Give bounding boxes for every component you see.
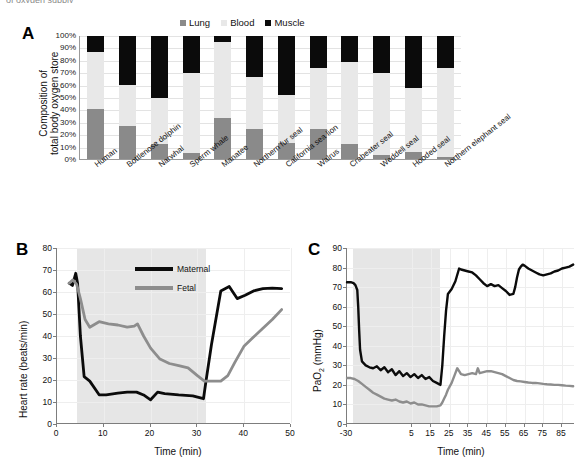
panel-c-plot-area bbox=[346, 248, 574, 424]
panel-b-plot-area: MaternalFetal bbox=[56, 248, 290, 424]
panel-a-legend: LungBloodMuscle bbox=[180, 17, 305, 28]
panel-a-y-tick: 90% bbox=[46, 43, 76, 52]
panelC-y-tick: 20 bbox=[316, 380, 342, 390]
panelB-x-tick: 40 bbox=[227, 428, 259, 438]
panel-a-bar-segment-lung bbox=[87, 109, 104, 159]
panelB-y-tick: 30 bbox=[26, 353, 52, 363]
panelC-y-tickmark bbox=[343, 307, 346, 308]
panelC-y-tick: 10 bbox=[316, 399, 342, 409]
panel-b-legend: MaternalFetal bbox=[135, 264, 210, 302]
panelC-y-tickmark bbox=[343, 326, 346, 327]
panel-a-y-tick: 0% bbox=[46, 155, 76, 164]
panel-a-legend-item-lung: Lung bbox=[180, 17, 210, 28]
panelC-x-tickmark bbox=[346, 424, 347, 427]
panelC-y-tick: 40 bbox=[316, 341, 342, 351]
panelC-y-tick: 60 bbox=[316, 302, 342, 312]
panel-a-bar bbox=[183, 36, 200, 159]
panel-c: C PaO2 (mmHg) Time (min) 010203040506070… bbox=[306, 232, 582, 469]
panelB-y-tickmark bbox=[53, 314, 56, 315]
panel-a-bar-segment-muscle bbox=[341, 36, 358, 62]
panelB-y-tick: 20 bbox=[26, 375, 52, 385]
panel-b: B Heart rate (beats/min) Time (min) Mate… bbox=[0, 232, 306, 469]
panel-b-legend-item-fetal: Fetal bbox=[135, 283, 210, 293]
panelB-x-tickmark bbox=[150, 424, 151, 427]
panel-a-bar bbox=[341, 36, 358, 159]
panel-a-bar-segment-muscle bbox=[437, 36, 454, 68]
panelB-x-tick: 20 bbox=[134, 428, 166, 438]
panelC-x-tickmark bbox=[467, 424, 468, 427]
panel-a-y-axis-label: Composition of total body oxygen store bbox=[38, 52, 60, 155]
legend-swatch-icon bbox=[221, 20, 227, 26]
panelB-gridline-v bbox=[291, 248, 292, 423]
panelB-y-tickmark bbox=[53, 336, 56, 337]
panel-a-bar bbox=[119, 36, 136, 159]
panelC-x-tickmark bbox=[524, 424, 525, 427]
panel-a-bars bbox=[80, 36, 461, 159]
panelB-x-tickmark bbox=[196, 424, 197, 427]
panel-a-bar-segment-muscle bbox=[278, 36, 295, 95]
panelC-x-tickmark bbox=[449, 424, 450, 427]
panel-a-bar-segment-blood bbox=[87, 52, 104, 109]
panelB-y-tick: 60 bbox=[26, 287, 52, 297]
panel-a-bar-segment-muscle bbox=[183, 36, 200, 73]
panel-a-bar bbox=[246, 36, 263, 159]
panel-b-legend-item-maternal: Maternal bbox=[135, 264, 210, 274]
panel-a-bar bbox=[87, 36, 104, 159]
panelB-x-tickmark bbox=[103, 424, 104, 427]
panel-a-legend-item-muscle: Muscle bbox=[265, 17, 304, 28]
panelC-y-tick: 30 bbox=[316, 360, 342, 370]
legend-line-icon bbox=[135, 286, 173, 290]
panelB-x-tick: 30 bbox=[180, 428, 212, 438]
panelC-x-tick: 85 bbox=[545, 428, 577, 438]
panelC-line-venous-gray- bbox=[347, 368, 573, 406]
panelB-x-tick: 50 bbox=[274, 428, 306, 438]
panel-c-x-axis-label: Time (min) bbox=[346, 446, 576, 457]
panel-a-legend-item-blood: Blood bbox=[221, 17, 254, 28]
panel-a-y-tick: 20% bbox=[46, 130, 76, 139]
panel-a-y-axis-label-line1: Composition of bbox=[38, 52, 49, 155]
panelC-y-tickmark bbox=[343, 385, 346, 386]
panel-a-legend-label: Lung bbox=[189, 17, 210, 28]
panel-a-y-tick: 50% bbox=[46, 93, 76, 102]
panel-a-y-tick: 60% bbox=[46, 81, 76, 90]
panel-a-bar-segment-muscle bbox=[373, 36, 390, 73]
panel-a-letter: A bbox=[22, 24, 34, 44]
panel-a: A Composition of total body oxygen store… bbox=[0, 0, 582, 232]
panelB-x-tick: 0 bbox=[40, 428, 72, 438]
panelC-y-tickmark bbox=[343, 268, 346, 269]
panelC-y-tick: 70 bbox=[316, 282, 342, 292]
panelC-y-tick: 50 bbox=[316, 321, 342, 331]
panelB-y-tickmark bbox=[53, 402, 56, 403]
panelB-y-tickmark bbox=[53, 248, 56, 249]
panel-a-y-tick: 30% bbox=[46, 118, 76, 127]
panel-a-bar-segment-muscle bbox=[119, 36, 136, 85]
panelC-y-tick: 80 bbox=[316, 263, 342, 273]
panel-a-bar-segment-muscle bbox=[405, 36, 422, 88]
panel-a-y-tick: 100% bbox=[46, 31, 76, 40]
panelB-x-tick: 10 bbox=[87, 428, 119, 438]
panelC-y-tickmark bbox=[343, 287, 346, 288]
panelB-y-tick: 50 bbox=[26, 309, 52, 319]
panel-a-y-tick: 70% bbox=[46, 68, 76, 77]
panelB-x-tickmark bbox=[290, 424, 291, 427]
panelB-y-tickmark bbox=[53, 292, 56, 293]
panel-a-bar-segment-blood bbox=[119, 85, 136, 126]
panelC-x-tickmark bbox=[561, 424, 562, 427]
panelC-x-tickmark bbox=[542, 424, 543, 427]
legend-swatch-icon bbox=[265, 20, 271, 26]
panel-a-y-tick: 80% bbox=[46, 56, 76, 65]
panelC-x-tickmark bbox=[411, 424, 412, 427]
panelC-x-tickmark bbox=[505, 424, 506, 427]
panelC-y-tickmark bbox=[343, 365, 346, 366]
panel-a-y-axis-label-line2: total body oxygen store bbox=[49, 52, 60, 155]
legend-line-icon bbox=[135, 267, 173, 271]
panelB-x-tickmark bbox=[243, 424, 244, 427]
panel-a-bar-segment-blood bbox=[183, 73, 200, 153]
panel-a-legend-label: Blood bbox=[230, 17, 254, 28]
panel-a-legend-label: Muscle bbox=[274, 17, 304, 28]
panel-a-bar-segment-muscle bbox=[310, 36, 327, 68]
figure-canvas: of oxygen supply A Composition of total … bbox=[0, 0, 582, 469]
panelC-y-tick: 90 bbox=[316, 243, 342, 253]
panelC-line-arterial-black- bbox=[347, 265, 573, 385]
panelC-y-tickmark bbox=[343, 346, 346, 347]
